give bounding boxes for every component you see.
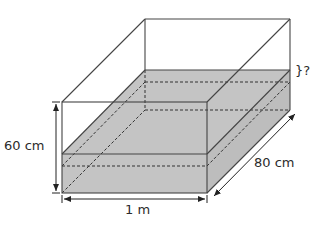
- width-label: 1 m: [125, 203, 150, 216]
- tank-svg: [0, 0, 314, 228]
- water-volume: [62, 70, 290, 193]
- height-label: 60 cm: [4, 139, 45, 152]
- dimension-height-arrow: [52, 102, 60, 193]
- unknown-height-label: }?: [295, 64, 310, 77]
- depth-label: 80 cm: [254, 156, 295, 169]
